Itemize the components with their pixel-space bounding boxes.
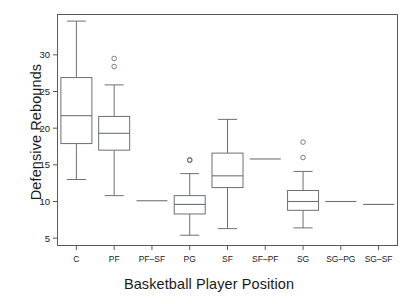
outlier-point (112, 56, 117, 61)
outlier-point (301, 140, 306, 145)
outlier-point (301, 155, 306, 160)
y-tick-label: 5 (45, 233, 50, 244)
box-iqr (212, 153, 243, 187)
x-axis-title: Basketball Player Position (0, 276, 418, 292)
x-tick-label: SG–PG (326, 254, 355, 264)
box-iqr (61, 78, 92, 144)
outlier-point (112, 64, 117, 69)
box-iqr (288, 191, 319, 211)
x-tick-label: SG–SF (365, 254, 393, 264)
y-axis-title: Defensive Rebounds (28, 12, 44, 252)
x-tick-label: PG (184, 254, 196, 264)
x-tick-label: SF (222, 254, 233, 264)
x-tick-label: PF–SF (139, 254, 165, 264)
x-tick-label: PF (109, 254, 120, 264)
boxplot-canvas: 51015202530CPFPF–SFPGSFSF–PFSGSG–PGSG–SF (0, 0, 418, 304)
x-tick-label: C (73, 254, 79, 264)
x-tick-label: SG (297, 254, 309, 264)
boxplot-figure: 51015202530CPFPF–SFPGSFSF–PFSGSG–PGSG–SF… (0, 0, 418, 304)
x-tick-label: SF–PF (252, 254, 278, 264)
